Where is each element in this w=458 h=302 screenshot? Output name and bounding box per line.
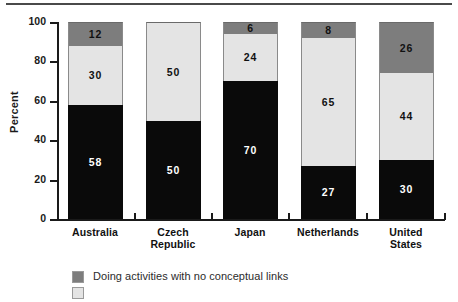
y-tick-label-0: 0 xyxy=(2,213,46,224)
bar-segment-no-links: 8 xyxy=(301,22,356,38)
bar-value-label: 65 xyxy=(322,97,335,108)
category-label-line1: United xyxy=(358,226,454,238)
y-tick-label-40: 40 xyxy=(2,134,46,145)
bar-segment-some-links: 50 xyxy=(146,22,201,121)
y-axis-line xyxy=(57,22,59,220)
bar-value-label: 44 xyxy=(400,111,413,122)
legend-label: Doing activities with no conceptual link… xyxy=(93,270,288,283)
x-tick-2 xyxy=(211,213,213,220)
bar-value-label: 24 xyxy=(244,52,257,63)
bar-segment-strong-links: 70 xyxy=(223,81,278,219)
bar-value-label: 8 xyxy=(325,25,332,36)
bar-segment-strong-links: 27 xyxy=(301,166,356,219)
bar-segment-no-links: 26 xyxy=(379,22,434,73)
legend-item-some-links[interactable] xyxy=(72,286,452,302)
bar-united-states[interactable]: 26 44 30 xyxy=(379,22,434,219)
x-tick-4 xyxy=(366,213,368,220)
bar-value-label: 30 xyxy=(400,184,413,195)
bar-australia[interactable]: 12 30 58 xyxy=(68,22,123,219)
y-tick-label-20: 20 xyxy=(2,174,46,185)
y-tick-label-100: 100 xyxy=(2,16,46,27)
bar-value-label: 26 xyxy=(400,43,413,54)
bar-czech-republic[interactable]: 50 50 xyxy=(146,22,201,219)
x-tick-3 xyxy=(288,213,290,220)
bar-value-label: 6 xyxy=(247,23,254,34)
bar-value-label: 30 xyxy=(89,70,102,81)
category-label-line2: States xyxy=(358,238,454,250)
x-tick-5 xyxy=(444,213,446,220)
bar-japan[interactable]: 6 24 70 xyxy=(223,22,278,219)
y-tick-20 xyxy=(50,180,58,182)
y-tick-40 xyxy=(50,140,58,142)
y-tick-80 xyxy=(50,61,58,63)
y-tick-100 xyxy=(50,22,58,24)
bar-segment-strong-links: 50 xyxy=(146,121,201,220)
x-axis-line xyxy=(57,219,445,221)
chart-legend: Doing activities with no conceptual link… xyxy=(72,270,452,302)
bar-value-label: 27 xyxy=(322,187,335,198)
bar-value-label: 70 xyxy=(244,145,257,156)
bar-segment-some-links: 44 xyxy=(379,73,434,160)
legend-swatch-icon xyxy=(72,271,84,283)
category-label-line2: Republic xyxy=(125,238,221,250)
bar-value-label: 58 xyxy=(89,157,102,168)
bar-segment-some-links: 65 xyxy=(301,38,356,166)
x-tick-1 xyxy=(134,213,136,220)
legend-item-no-links[interactable]: Doing activities with no conceptual link… xyxy=(72,270,452,286)
bar-segment-no-links: 12 xyxy=(68,22,123,46)
bar-value-label: 50 xyxy=(167,165,180,176)
bar-value-label: 50 xyxy=(167,67,180,78)
bar-value-label: 12 xyxy=(89,29,102,40)
bar-segment-strong-links: 30 xyxy=(379,160,434,219)
legend-swatch-icon xyxy=(72,287,84,299)
bar-netherlands[interactable]: 8 65 27 xyxy=(301,22,356,219)
y-tick-label-80: 80 xyxy=(2,55,46,66)
bar-segment-no-links: 6 xyxy=(223,22,278,34)
bar-segment-some-links: 24 xyxy=(223,34,278,81)
bar-segment-strong-links: 58 xyxy=(68,105,123,219)
y-tick-label-60: 60 xyxy=(2,95,46,106)
y-tick-60 xyxy=(50,101,58,103)
category-label-united-states: United States xyxy=(358,226,454,251)
bar-segment-some-links: 30 xyxy=(68,46,123,105)
